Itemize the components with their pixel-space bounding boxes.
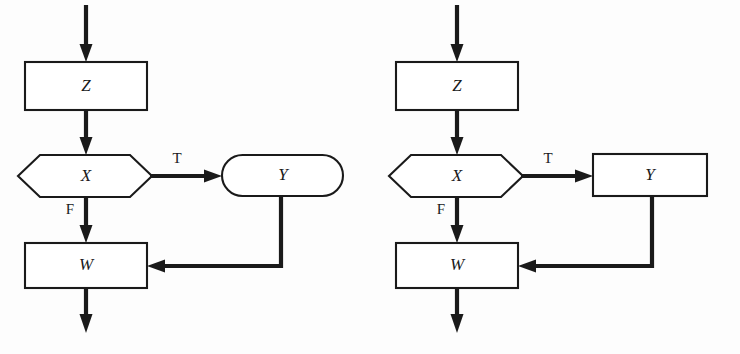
edge-exit-left (80, 288, 93, 333)
node-x-right-label: X (451, 166, 463, 185)
node-z-left-label: Z (81, 76, 91, 95)
node-y-left: Y (222, 155, 343, 196)
node-w-right: W (396, 243, 518, 288)
edge-z-to-x-left (80, 110, 93, 155)
edge-x-true-left-label: T (172, 150, 181, 166)
edge-entry-left (80, 5, 93, 62)
node-x-right: X (389, 155, 523, 197)
edge-exit-right (451, 288, 464, 333)
node-x-left-label: X (80, 166, 92, 185)
edge-x-false-right: F (437, 197, 464, 243)
node-y-right-label: Y (645, 165, 656, 184)
edge-y-to-w-left (147, 196, 281, 273)
node-w-right-label: W (450, 255, 466, 274)
edge-x-false-left-label: F (66, 201, 74, 217)
diagram-left: Z X Y arrow --> T Y (18, 5, 343, 333)
node-w-left-label: W (79, 255, 95, 274)
node-x-left: X (18, 155, 152, 197)
node-y-right: Y (593, 154, 707, 196)
edge-x-true-right: T (521, 150, 593, 182)
diagram-right: Z X Y arrow --> T Y (389, 5, 707, 333)
edge-x-true-right-label: T (543, 150, 552, 166)
edge-z-to-x-right (451, 110, 464, 155)
node-z-right-label: Z (452, 76, 462, 95)
edge-entry-right (451, 5, 464, 62)
node-z-right: Z (396, 62, 518, 110)
flowchart-canvas: Z X Y arrow --> T Y (0, 0, 740, 354)
edge-y-to-w-right (518, 196, 652, 273)
figure-root: Z X Y arrow --> T Y (0, 0, 740, 354)
node-w-left: W (25, 243, 147, 288)
edge-x-true-left: T (150, 150, 222, 182)
edge-x-false-right-label: F (437, 201, 445, 217)
node-z-left: Z (25, 62, 147, 110)
edge-x-false-left: F (66, 197, 93, 243)
node-y-left-label: Y (278, 165, 289, 184)
